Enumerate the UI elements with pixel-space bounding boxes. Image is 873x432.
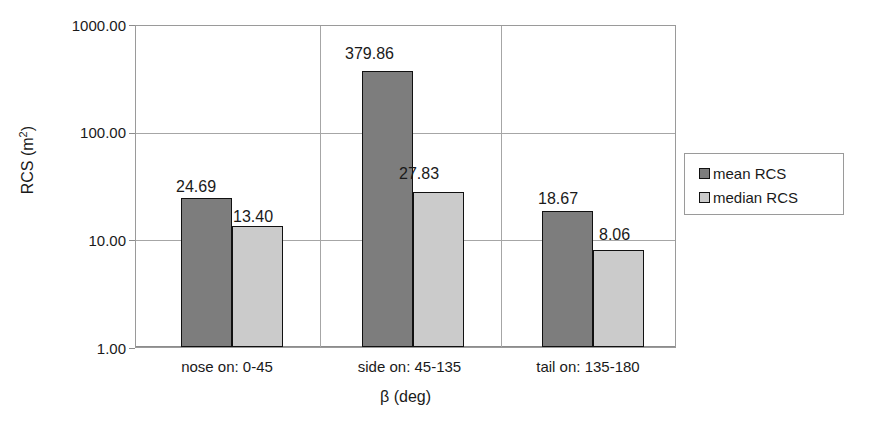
- legend-swatch-mean-icon: [699, 168, 710, 179]
- y-axis-title: RCS (m2): [17, 100, 37, 220]
- legend-label-mean-rcs: mean RCS: [713, 165, 786, 182]
- y-tick-label-1000: 1000.00: [52, 18, 126, 33]
- gridline-category-1: [320, 26, 321, 347]
- x-category-label-nose-on: nose on: 0-45: [135, 358, 319, 375]
- legend-item-median-rcs[interactable]: median RCS: [699, 185, 843, 209]
- x-category-label-tail-on: tail on: 135-180: [500, 358, 676, 375]
- x-category-label-side-on: side on: 45-135: [319, 358, 500, 375]
- x-axis-title: β (deg): [135, 388, 676, 406]
- gridline-category-2: [501, 26, 502, 347]
- legend-swatch-median-icon: [699, 192, 710, 203]
- y-tick-label-1: 1.00: [52, 341, 126, 356]
- y-tick-label-100: 100.00: [52, 125, 126, 140]
- rcs-bar-chart: 1000.00 100.00 10.00 1.00 RCS (m2) 24.69…: [0, 0, 873, 432]
- bar-label-median-nose-on: 13.40: [233, 208, 273, 225]
- bar-median-nose-on[interactable]: [232, 226, 283, 347]
- y-tick-mark-1: [129, 348, 135, 349]
- bar-mean-nose-on[interactable]: [181, 198, 232, 347]
- bar-median-side-on[interactable]: [413, 192, 464, 347]
- y-tick-label-10: 10.00: [52, 233, 126, 248]
- plot-area: 24.69 13.40 379.86 27.83 18.67 8.06: [135, 25, 676, 348]
- bar-mean-side-on[interactable]: [362, 71, 413, 347]
- bar-label-mean-tail-on: 18.67: [538, 190, 578, 207]
- bar-label-mean-nose-on: 24.69: [176, 178, 216, 195]
- bar-label-median-side-on: 27.83: [399, 165, 439, 182]
- bar-median-tail-on[interactable]: [593, 250, 644, 347]
- legend-item-mean-rcs[interactable]: mean RCS: [699, 161, 843, 185]
- bar-label-median-tail-on: 8.06: [599, 226, 630, 243]
- y-axis-title-text: RCS (m: [19, 137, 36, 194]
- y-axis-title-paren: ): [19, 126, 36, 131]
- y-axis-title-exponent: 2: [17, 131, 29, 137]
- legend-label-median-rcs: median RCS: [713, 189, 798, 206]
- bar-label-mean-side-on: 379.86: [345, 45, 394, 62]
- bar-mean-tail-on[interactable]: [542, 211, 593, 347]
- legend: mean RCS median RCS: [684, 153, 844, 215]
